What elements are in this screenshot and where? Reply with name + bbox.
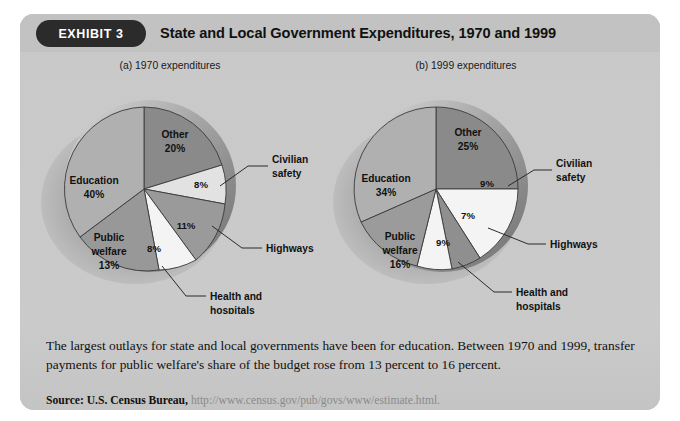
label-health-pct: 8% [147,243,161,254]
label-public-welfare-pct: 13% [99,260,119,271]
label-public-welfare-1: Public [94,232,125,243]
label-other: Other [454,127,481,138]
label-health-pct: 9% [436,237,450,248]
label-education: Education [361,173,410,184]
label-public-welfare-2: welfare [90,246,126,257]
label-other-pct: 25% [458,141,478,152]
source-label: Source: [46,394,84,407]
callout-health-2: hospitals [516,301,561,312]
callout-health-2: hospitals [210,305,255,314]
callout-highways: Highways [266,243,314,254]
label-other-pct: 20% [165,143,185,154]
callout-health-1: Health and [210,291,262,302]
chart-1970-expenditures: (a) 1970 expenditures [20,56,340,318]
label-public-welfare-pct: 16% [390,259,410,270]
source-url[interactable]: http://www.census.gov/pub/govs/www/estim… [191,394,440,407]
callout-health-1: Health and [516,287,568,298]
exhibit-description: The largest outlays for state and local … [46,336,636,375]
label-highways-pct: 7% [461,210,475,221]
label-civilian-pct: 8% [194,179,208,190]
label-education-pct: 40% [84,189,104,200]
callout-civilian-safety-2: safety [556,172,586,183]
chart-1999-expenditures: (b) 1999 expenditures [316,56,636,318]
exhibit-badge: EXHIBIT 3 [36,20,146,47]
pie-chart-1970: Education 40% Other 20% 8% 11% 8% Public… [20,74,340,314]
charts-area: (a) 1970 expenditures [20,56,660,318]
callout-civilian-safety-1: Civilian [272,154,308,165]
label-education: Education [69,175,118,186]
source-publisher: U.S. Census Bureau, [87,394,188,407]
exhibit-panel: EXHIBIT 3 State and Local Government Exp… [20,14,660,410]
label-public-welfare-2: welfare [381,245,417,256]
source-line: Source: U.S. Census Bureau, http://www.c… [46,394,636,407]
chart-1999-caption: (b) 1999 expenditures [316,60,616,71]
pie-chart-1999: Education 34% Other 25% 9% 7% 9% Public … [316,74,660,314]
page-title: State and Local Government Expenditures,… [160,25,556,41]
callout-civilian-safety-2: safety [272,168,302,179]
callout-highways: Highways [550,239,598,250]
label-civilian-pct: 9% [480,178,494,189]
chart-1970-caption: (a) 1970 expenditures [20,60,320,71]
label-public-welfare-1: Public [385,231,416,242]
label-other: Other [161,129,188,140]
label-education-pct: 34% [376,187,396,198]
label-highways-pct: 11% [177,220,196,231]
callout-civilian-safety-1: Civilian [556,158,592,169]
